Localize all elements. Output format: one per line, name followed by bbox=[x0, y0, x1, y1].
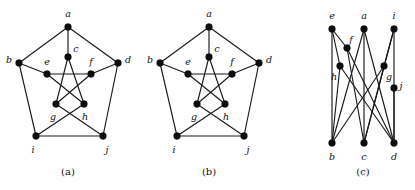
graph-vertex-i bbox=[174, 133, 181, 140]
graph-edge-d-j bbox=[244, 63, 259, 136]
vertex-label-h: h bbox=[223, 111, 229, 122]
graph-vertex-d bbox=[256, 60, 263, 67]
graph-vertex-f bbox=[344, 45, 351, 52]
graph-vertex-b bbox=[16, 60, 23, 67]
graph-edge-b-i bbox=[160, 63, 177, 136]
edge-group-a bbox=[19, 27, 118, 136]
graph-vertex-c bbox=[361, 140, 368, 147]
graph-vertex-f bbox=[229, 71, 236, 78]
graph-vertex-g bbox=[381, 63, 388, 70]
vertex-label-a: a bbox=[65, 8, 71, 19]
graph-vertex-a bbox=[65, 24, 72, 31]
graph-edge-d-j bbox=[103, 63, 118, 136]
panel-caption-c: (c) bbox=[356, 166, 370, 177]
graph-vertex-i bbox=[33, 133, 40, 140]
graph-vertex-f bbox=[88, 71, 95, 78]
vertex-label-f: f bbox=[348, 34, 354, 45]
vertex-group-a: abdijcefgh bbox=[6, 8, 131, 155]
vertex-label-a: a bbox=[206, 8, 212, 19]
graph-edge-d-f bbox=[232, 63, 259, 74]
panels-layer: abdijcefgh(a)abdijcefgh(b)eaifhgjbcd(c) bbox=[6, 8, 403, 177]
graph-edge-i-h bbox=[177, 104, 225, 136]
graph-vertex-i bbox=[391, 26, 398, 33]
graph-edge-j-g bbox=[56, 104, 103, 136]
graph-vertex-h bbox=[81, 101, 88, 108]
graph-edge-i-h bbox=[36, 104, 84, 136]
vertex-label-c: c bbox=[73, 43, 79, 54]
graph-vertex-b bbox=[329, 140, 336, 147]
vertex-label-e: e bbox=[44, 56, 50, 67]
graph-figure-canvas: abdijcefgh(a)abdijcefgh(b)eaifhgjbcd(c) bbox=[0, 0, 415, 190]
graph-vertex-a bbox=[361, 26, 368, 33]
vertex-label-j: j bbox=[398, 80, 403, 91]
graph-vertex-c bbox=[65, 54, 72, 61]
graph-panel-c: eaifhgjbcd(c) bbox=[329, 10, 403, 177]
vertex-label-d: d bbox=[125, 54, 131, 65]
graph-vertex-b bbox=[157, 60, 164, 67]
graph-vertex-g bbox=[194, 101, 201, 108]
vertex-label-j: j bbox=[104, 144, 109, 155]
graph-edge-f-d bbox=[347, 48, 394, 143]
graph-edge-f-g bbox=[197, 74, 232, 104]
graph-edge-b-e bbox=[19, 63, 47, 74]
graph-vertex-e bbox=[185, 71, 192, 78]
graph-edge-j-g bbox=[197, 104, 244, 136]
vertex-label-f: f bbox=[88, 56, 94, 67]
vertex-label-c: c bbox=[361, 151, 367, 162]
graph-vertex-j bbox=[241, 133, 248, 140]
vertex-label-i: i bbox=[172, 144, 175, 155]
petersen-graph-figure: abdijcefgh(a)abdijcefgh(b)eaifhgjbcd(c) bbox=[0, 0, 415, 190]
vertex-label-h: h bbox=[82, 111, 88, 122]
vertex-label-j: j bbox=[245, 144, 250, 155]
edge-group-b bbox=[160, 27, 259, 136]
graph-vertex-h bbox=[337, 63, 344, 70]
graph-edge-b-e bbox=[160, 63, 188, 74]
vertex-label-a: a bbox=[361, 10, 367, 21]
vertex-label-e: e bbox=[185, 56, 191, 67]
vertex-group-b: abdijcefgh bbox=[147, 8, 272, 155]
graph-vertex-e bbox=[44, 71, 51, 78]
vertex-label-d: d bbox=[266, 54, 272, 65]
graph-vertex-h bbox=[222, 101, 229, 108]
vertex-label-d: d bbox=[391, 151, 397, 162]
graph-edge-g-b bbox=[332, 66, 384, 143]
vertex-label-c: c bbox=[214, 43, 220, 54]
graph-edge-c-g bbox=[197, 57, 209, 104]
graph-edge-c-g bbox=[56, 57, 68, 104]
vertex-label-h: h bbox=[331, 71, 337, 82]
vertex-label-b: b bbox=[329, 151, 335, 162]
graph-vertex-d bbox=[391, 140, 398, 147]
vertex-label-g: g bbox=[191, 111, 197, 122]
graph-vertex-c bbox=[206, 54, 213, 61]
graph-panel-a: abdijcefgh(a) bbox=[6, 8, 131, 177]
vertex-label-i: i bbox=[392, 10, 395, 21]
vertex-label-b: b bbox=[147, 54, 153, 65]
graph-vertex-j bbox=[100, 133, 107, 140]
graph-vertex-e bbox=[329, 26, 336, 33]
graph-edge-f-g bbox=[56, 74, 91, 104]
graph-vertex-d bbox=[115, 60, 122, 67]
graph-edge-f-c bbox=[347, 48, 364, 143]
vertex-label-f: f bbox=[229, 56, 235, 67]
panel-caption-b: (b) bbox=[202, 166, 216, 177]
graph-edge-b-i bbox=[19, 63, 36, 136]
graph-vertex-j bbox=[391, 85, 398, 92]
edge-group-c bbox=[332, 29, 394, 143]
vertex-label-b: b bbox=[6, 54, 12, 65]
panel-caption-a: (a) bbox=[61, 166, 75, 177]
vertex-label-i: i bbox=[31, 144, 34, 155]
vertex-label-e: e bbox=[329, 10, 335, 21]
graph-vertex-g bbox=[53, 101, 60, 108]
graph-panel-b: abdijcefgh(b) bbox=[147, 8, 272, 177]
graph-edge-d-f bbox=[91, 63, 118, 74]
graph-vertex-a bbox=[206, 24, 213, 31]
vertex-label-g: g bbox=[386, 71, 392, 82]
vertex-label-g: g bbox=[50, 111, 56, 122]
